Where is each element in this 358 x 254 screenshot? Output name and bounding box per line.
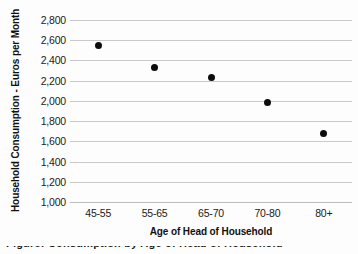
x-tick-label: 70-80: [237, 207, 297, 219]
y-tick-label: 2,800: [18, 15, 66, 25]
gridline: [70, 20, 352, 21]
y-tick-label: 2,400: [18, 55, 66, 65]
y-tick-label: 1,200: [18, 177, 66, 187]
data-point: [95, 42, 102, 49]
y-tick-label: 1,000: [18, 197, 66, 207]
y-tick-label: 1,400: [18, 157, 66, 167]
y-tick-label: 2,000: [18, 96, 66, 106]
gridline: [70, 162, 352, 163]
x-tick-label: 80+: [294, 207, 354, 219]
gridline: [70, 121, 352, 122]
data-point: [264, 99, 271, 106]
figure-caption-cropped: Figure: Consumption by Age of Head of Ho…: [0, 246, 358, 254]
data-point: [151, 64, 158, 71]
gridline: [70, 60, 352, 61]
figure-caption-text: Figure: Consumption by Age of Head of Ho…: [6, 246, 283, 249]
gridline: [70, 202, 352, 203]
gridline: [70, 141, 352, 142]
gridline: [70, 101, 352, 102]
gridline: [70, 182, 352, 183]
x-tick-label: 45-55: [68, 207, 128, 219]
x-axis-title: Age of Head of Household: [70, 226, 352, 237]
data-point: [208, 74, 215, 81]
y-tick-label: 2,200: [18, 76, 66, 86]
y-tick-label: 1,800: [18, 116, 66, 126]
x-tick-label: 55-65: [125, 207, 185, 219]
plot-area: [70, 20, 352, 202]
data-point: [320, 130, 327, 137]
y-tick-label: 2,600: [18, 35, 66, 45]
y-tick-label: 1,600: [18, 136, 66, 146]
chart-figure: Household Consumption - Euros per Month …: [0, 0, 358, 254]
x-tick-label: 65-70: [181, 207, 241, 219]
gridline: [70, 40, 352, 41]
